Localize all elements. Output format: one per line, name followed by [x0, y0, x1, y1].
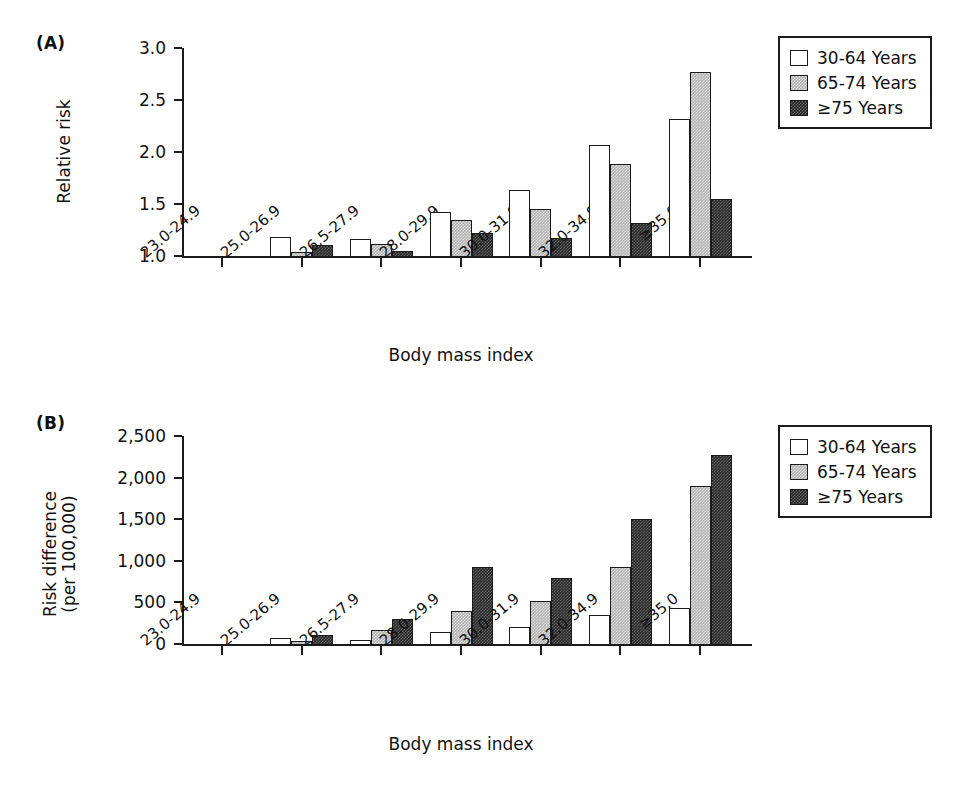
- x-axis-tick: [699, 646, 701, 655]
- legend-item-label: 30-64 Years: [817, 437, 917, 457]
- bar: [669, 608, 690, 645]
- y-axis-tick: [174, 203, 182, 205]
- bar: [711, 455, 732, 645]
- white-open-square-icon: [790, 50, 808, 66]
- bar: [690, 486, 711, 645]
- y-axis-tick-label: 1,000: [86, 551, 166, 571]
- dark-gray-square-icon: [790, 100, 808, 116]
- y-axis-tick-label: 2,000: [86, 468, 166, 488]
- y-axis-tick-label: 3.0: [86, 38, 166, 58]
- panel-a-letter: (A): [36, 33, 65, 53]
- y-axis-tick-label: 2.5: [86, 90, 166, 110]
- y-axis-tick: [174, 47, 182, 49]
- y-axis-tick: [174, 99, 182, 101]
- bar: [430, 212, 451, 257]
- panel-b-y-axis-title: Risk difference (per 100,000): [41, 454, 79, 654]
- bar: [711, 199, 732, 257]
- y-axis-tick: [174, 435, 182, 437]
- panel-a: (A) Relative risk 1.01.52.02.53.023.0-24…: [0, 0, 963, 397]
- white-open-square-icon: [790, 439, 808, 455]
- panel-b-letter: (B): [36, 413, 65, 433]
- bar: [589, 145, 610, 257]
- legend-item-1: 65-74 Years: [790, 70, 917, 95]
- legend-item-label: ≥75 Years: [817, 98, 903, 118]
- bar: [669, 119, 690, 257]
- y-axis-tick-label: 500: [86, 592, 166, 612]
- legend-item-0: 30-64 Years: [790, 434, 917, 459]
- legend-item-0: 30-64 Years: [790, 45, 917, 70]
- legend-item-2: ≥75 Years: [790, 95, 917, 120]
- x-axis-tick: [699, 258, 701, 267]
- panel-b-x-axis-title: Body mass index: [182, 734, 740, 754]
- y-axis-tick-label: 1.5: [86, 194, 166, 214]
- panel-b-y-axis-title-line1: Risk difference: [41, 454, 60, 654]
- y-axis-tick: [174, 477, 182, 479]
- y-axis-tick-label: 2.0: [86, 142, 166, 162]
- y-axis-tick: [174, 255, 182, 257]
- panel-a-x-axis-title: Body mass index: [182, 345, 740, 365]
- light-gray-square-icon: [790, 75, 808, 91]
- y-axis-tick: [174, 518, 182, 520]
- y-axis-tick: [174, 560, 182, 562]
- y-axis-tick-label: 1,500: [86, 509, 166, 529]
- legend-item-label: 65-74 Years: [817, 462, 917, 482]
- legend-item-label: 30-64 Years: [817, 48, 917, 68]
- panel-b-legend: 30-64 Years65-74 Years≥75 Years: [778, 425, 932, 518]
- panel-a-legend: 30-64 Years65-74 Years≥75 Years: [778, 36, 932, 129]
- bar: [690, 72, 711, 257]
- legend-item-label: ≥75 Years: [817, 487, 903, 507]
- legend-item-label: 65-74 Years: [817, 73, 917, 93]
- y-axis-tick: [174, 151, 182, 153]
- light-gray-square-icon: [790, 464, 808, 480]
- y-axis-tick-label: 2,500: [86, 426, 166, 446]
- legend-item-1: 65-74 Years: [790, 459, 917, 484]
- bar: [589, 615, 610, 645]
- legend-item-2: ≥75 Years: [790, 484, 917, 509]
- bar: [509, 190, 530, 257]
- panel-a-y-axis-title: Relative risk: [55, 52, 74, 252]
- panel-b-y-axis-title-line2: (per 100,000): [60, 454, 79, 654]
- panel-a-plot-area: 1.01.52.02.53.023.0-24.925.0-26.926.5-27…: [182, 48, 740, 256]
- panel-b-plot-area: 05001,0001,5002,0002,50023.0-24.925.0-26…: [182, 436, 740, 644]
- y-axis-tick: [174, 643, 182, 645]
- panel-b: (B) Risk difference (per 100,000) 05001,…: [0, 397, 963, 794]
- dark-gray-square-icon: [790, 489, 808, 505]
